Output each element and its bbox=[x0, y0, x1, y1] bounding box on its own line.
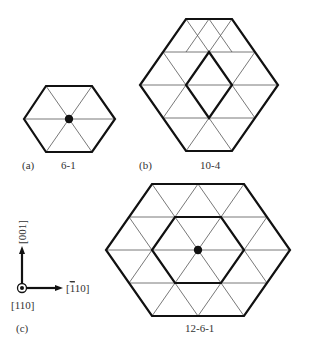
axis-label-001: [001] bbox=[16, 220, 28, 244]
arrow-up-icon bbox=[19, 246, 25, 254]
out-of-plane-dot-icon bbox=[20, 286, 24, 290]
figure-canvas: (a) 6-1 (b) 10-4 bbox=[0, 0, 310, 348]
axes-indicator bbox=[18, 246, 64, 293]
center-atom-dot bbox=[65, 115, 73, 123]
caption-6-1: 6-1 bbox=[61, 159, 76, 171]
hexagon-6-1 bbox=[24, 86, 115, 152]
panel-label-c: (c) bbox=[16, 322, 29, 335]
caption-12-6-1: 12-6-1 bbox=[185, 322, 214, 334]
arrow-right-icon bbox=[55, 285, 63, 291]
panel-label-a: (a) bbox=[22, 159, 35, 172]
panel-label-b: (b) bbox=[139, 159, 152, 172]
hexagon-12-6-1 bbox=[106, 184, 290, 316]
caption-10-4: 10-4 bbox=[200, 159, 221, 171]
hexagon-10-4 bbox=[140, 19, 278, 151]
center-atom-dot bbox=[194, 246, 202, 254]
lattice-diagram: (a) 6-1 (b) 10-4 bbox=[0, 0, 310, 348]
axis-label-110: [110] bbox=[11, 299, 34, 311]
axis-label-110bar: [110] bbox=[66, 282, 89, 294]
